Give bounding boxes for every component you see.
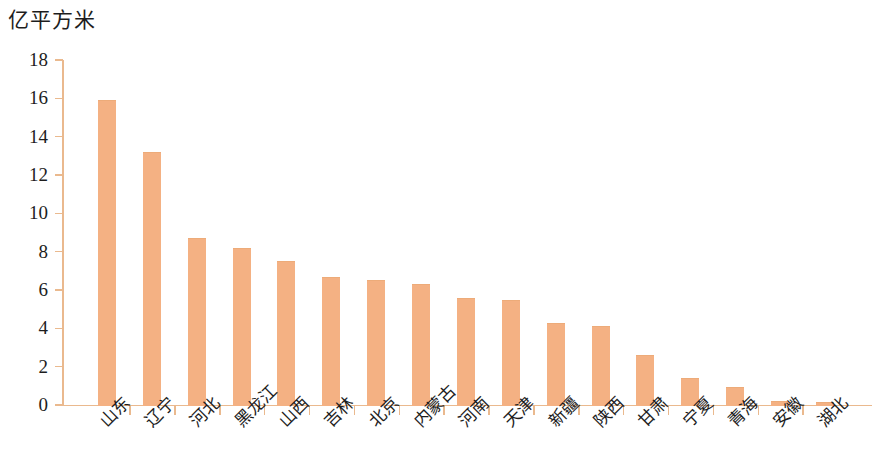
bar: [502, 300, 520, 406]
y-tick-label: 8: [14, 242, 48, 261]
y-tick-label: 16: [14, 88, 48, 107]
y-tick-mark: [55, 404, 63, 406]
bar: [233, 248, 251, 406]
x-tick-label: 安徽: [770, 394, 806, 430]
y-axis-line: [62, 60, 64, 406]
bar: [367, 280, 385, 406]
y-tick-label: 0: [14, 395, 48, 414]
y-tick-mark: [55, 251, 63, 253]
plot-area: 024681012141618 山东辽宁河北黑龙江山西吉林北京内蒙古河南天津新疆…: [0, 0, 878, 476]
y-tick-mark: [55, 136, 63, 138]
bar: [277, 261, 295, 406]
y-tick-mark: [55, 213, 63, 215]
bar-chart: 亿平方米 024681012141618 山东辽宁河北黑龙江山西吉林北京内蒙古河…: [0, 0, 878, 476]
y-tick-mark: [55, 289, 63, 291]
x-tick-label: 湖北: [815, 394, 851, 430]
y-tick-mark: [55, 174, 63, 176]
y-tick-mark: [55, 59, 63, 61]
bar: [412, 284, 430, 406]
bar: [322, 277, 340, 406]
bar: [547, 323, 565, 406]
y-tick-mark: [55, 98, 63, 100]
y-tick-label: 2: [14, 357, 48, 376]
y-tick-label: 18: [14, 50, 48, 69]
y-tick-mark: [55, 366, 63, 368]
bar: [98, 100, 116, 406]
y-tick-label: 6: [14, 280, 48, 299]
y-tick-mark: [55, 328, 63, 330]
bar: [188, 238, 206, 406]
y-tick-label: 14: [14, 127, 48, 146]
bar: [592, 326, 610, 406]
y-tick-label: 12: [14, 165, 48, 184]
bar: [457, 298, 475, 406]
y-tick-label: 10: [14, 203, 48, 222]
bar: [143, 152, 161, 406]
y-tick-label: 4: [14, 318, 48, 337]
